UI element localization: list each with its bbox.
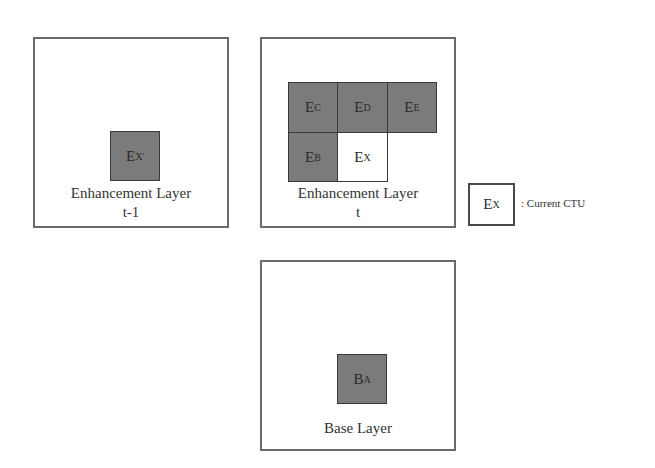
block-ex-prime-base: E xyxy=(126,148,135,165)
block-ee-base: E xyxy=(404,99,413,116)
block-ed-sub: D xyxy=(363,102,370,113)
block-eb-base: E xyxy=(305,149,314,166)
block-ed-base: E xyxy=(354,99,363,116)
base-layer-caption: Base Layer xyxy=(260,419,456,438)
block-ec: EC xyxy=(288,82,338,133)
caption-line1: Enhancement Layer xyxy=(260,184,456,203)
block-ed: ED xyxy=(337,82,388,133)
block-eb: EB xyxy=(288,132,338,182)
block-ec-sub: C xyxy=(314,102,321,113)
block-ex-prime: EX' xyxy=(110,131,160,181)
block-ba-sub: A xyxy=(363,374,370,385)
caption-line2: t xyxy=(260,203,456,222)
legend-block-sub: X xyxy=(492,199,499,210)
block-ex-base: E xyxy=(354,149,363,166)
block-eb-sub: B xyxy=(314,152,321,163)
block-ex-prime-sup: ' xyxy=(142,151,144,161)
enhancement-layer-t-minus-1-caption: Enhancement Layer t-1 xyxy=(33,184,229,222)
block-ba: BA xyxy=(337,354,387,404)
block-ec-base: E xyxy=(305,99,314,116)
legend-current-ctu-label: : Current CTU xyxy=(521,197,585,209)
block-ba-base: B xyxy=(353,371,363,388)
block-ex-sub: X xyxy=(363,152,370,163)
legend-block-base: E xyxy=(483,196,492,213)
block-ee-sub: E xyxy=(414,102,420,113)
block-ee: EE xyxy=(387,82,437,133)
block-ex-current: EX xyxy=(337,132,388,182)
block-ex-prime-sub: X xyxy=(135,151,142,162)
legend-current-ctu-block: EX xyxy=(468,183,515,226)
caption-line1: Enhancement Layer xyxy=(33,184,229,203)
enhancement-layer-t-caption: Enhancement Layer t xyxy=(260,184,456,222)
caption-line2: t-1 xyxy=(33,203,229,222)
